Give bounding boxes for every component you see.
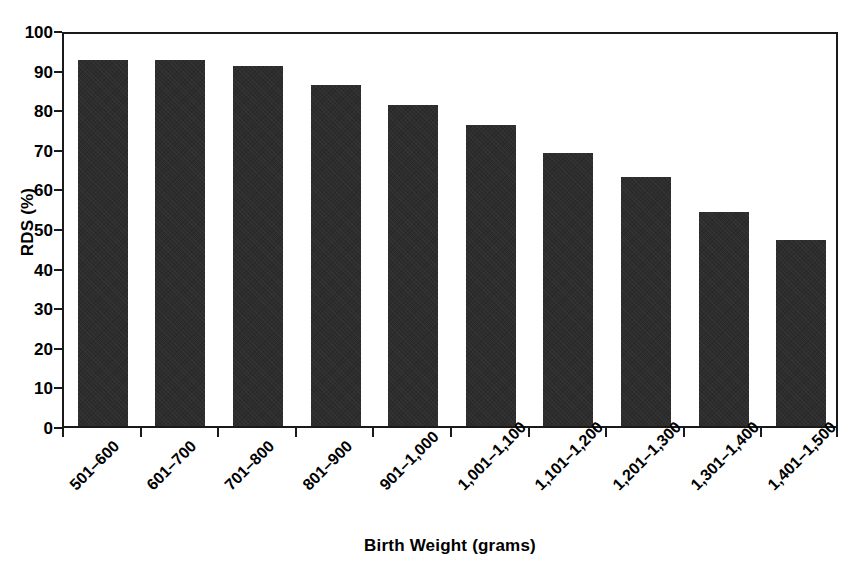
y-axis-tick-mark [54, 229, 62, 231]
x-axis-tick-mark [140, 428, 142, 437]
y-axis-tick-labels: 1009080706050403020100 [0, 32, 53, 428]
x-axis-tick-mark [217, 428, 219, 437]
y-axis-tick-mark [54, 348, 62, 350]
x-axis-tick-labels: 501–600601–700701–800801–900901–1,0001,0… [62, 438, 852, 528]
y-axis-tick-label: 30 [0, 301, 53, 318]
bar-chart-figure: RDS (%) 1009080706050403020100 501–60060… [0, 0, 855, 566]
x-axis-tick-mark [62, 428, 64, 437]
plot-area [62, 32, 838, 428]
y-axis-tick-label: 20 [0, 340, 53, 357]
x-axis-tick-label: 901–1,000 [377, 429, 442, 494]
bar [621, 177, 671, 426]
y-axis-tick-label: 60 [0, 182, 53, 199]
bar [466, 125, 516, 426]
y-axis-tick-mark [54, 427, 62, 429]
y-axis-tick-label: 10 [0, 380, 53, 397]
y-axis-tick-mark [54, 308, 62, 310]
bar [699, 212, 749, 426]
y-axis-tick-label: 100 [0, 24, 53, 41]
y-axis-tick-label: 40 [0, 261, 53, 278]
y-axis-tick-mark [54, 110, 62, 112]
y-axis-tick-mark [54, 189, 62, 191]
x-axis-tick-label: 701–800 [222, 438, 277, 493]
y-axis-tick-label: 90 [0, 63, 53, 80]
bar [388, 105, 438, 426]
y-axis-tick-mark [54, 269, 62, 271]
x-axis-title: Birth Weight (grams) [62, 536, 838, 556]
y-axis-tick-mark [54, 387, 62, 389]
x-axis-tick-label: 801–900 [300, 438, 355, 493]
bar [233, 66, 283, 426]
y-axis-tick-label: 50 [0, 222, 53, 239]
x-axis-tick-label: 501–600 [67, 438, 122, 493]
bar [311, 85, 361, 426]
bar [78, 60, 128, 426]
y-axis-tick-mark [54, 31, 62, 33]
bar [776, 240, 826, 426]
y-axis-tick-label: 0 [0, 420, 53, 437]
y-axis-tick-mark [54, 71, 62, 73]
x-axis-tick-label: 601–700 [144, 438, 199, 493]
x-axis-tick-mark [372, 428, 374, 437]
bar [543, 153, 593, 426]
y-axis-tick-label: 70 [0, 142, 53, 159]
x-axis-tick-mark [450, 428, 452, 437]
x-axis-tick-mark [295, 428, 297, 437]
x-axis-tick-marks [62, 428, 838, 438]
bar [155, 60, 205, 426]
y-axis-tick-mark [54, 150, 62, 152]
y-axis-tick-label: 80 [0, 103, 53, 120]
bars-layer [64, 34, 836, 426]
